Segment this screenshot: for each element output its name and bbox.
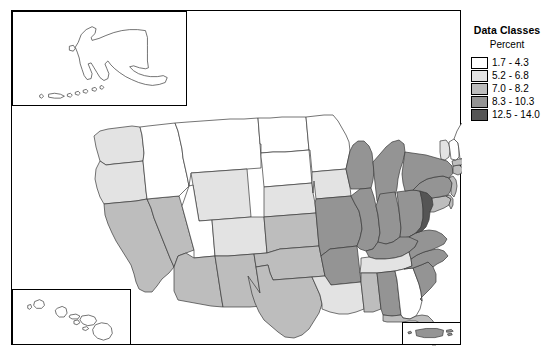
- legend-row[interactable]: 1.7 - 4.3: [471, 56, 546, 69]
- alaska-aleutian-7: [100, 85, 104, 89]
- alaska-aleutian-6: [40, 94, 44, 98]
- hawaii-niihau: [28, 304, 32, 309]
- state-vt[interactable]: [440, 140, 450, 160]
- puerto-rico-culebra: [447, 333, 452, 336]
- legend-swatch-2: [471, 83, 488, 95]
- legend-row[interactable]: 8.3 - 10.3: [471, 96, 546, 109]
- legend-label-0: 1.7 - 4.3: [492, 57, 529, 69]
- legend-swatch-1: [471, 70, 488, 82]
- alaska-aleutian-5: [92, 87, 97, 91]
- legend-title: Data Classes: [468, 24, 546, 37]
- alaska-mainland: [75, 27, 167, 86]
- alaska-island-1: [69, 45, 75, 51]
- hawaii-oahu: [55, 306, 67, 317]
- alaska-aleutian-3: [75, 91, 80, 95]
- alaska-aleutian-2: [67, 93, 72, 97]
- puerto-rico-vieques: [446, 329, 453, 332]
- alaska-aleutian-1: [49, 93, 65, 98]
- hawaii-bigisland: [93, 323, 113, 340]
- legend-swatch-4: [471, 109, 488, 121]
- state-or[interactable]: [95, 161, 147, 204]
- hawaii-kauai: [34, 300, 45, 309]
- hawaii-kahoolawe: [83, 327, 89, 331]
- hawaii-inset[interactable]: [12, 289, 131, 345]
- alaska-inset[interactable]: [12, 11, 187, 106]
- state-ia[interactable]: [312, 169, 351, 199]
- legend-subtitle: Percent: [468, 38, 546, 51]
- legend-row[interactable]: 7.0 - 8.2: [471, 82, 546, 95]
- legend-row[interactable]: 12.5 - 14.0: [471, 109, 546, 122]
- legend-label-2: 7.0 - 8.2: [492, 83, 529, 95]
- legend-swatch-0: [471, 57, 488, 69]
- state-wy[interactable]: [191, 169, 251, 221]
- legend-items: 1.7 - 4.3 5.2 - 6.8 7.0 - 8.2 8.3 - 10.3…: [471, 56, 546, 122]
- puerto-rico-inset-svg[interactable]: [403, 323, 460, 344]
- alaska-inset-svg[interactable]: [13, 12, 186, 105]
- puerto-rico-main: [416, 328, 444, 337]
- puerto-rico-mona: [408, 331, 412, 334]
- hawaii-molokai: [69, 314, 80, 319]
- state-sd[interactable]: [261, 150, 312, 187]
- state-wa[interactable]: [94, 126, 144, 165]
- alaska-aleutian-4: [83, 89, 88, 93]
- hawaii-inset-svg[interactable]: [13, 290, 130, 344]
- legend-panel: Data Classes Percent 1.7 - 4.3 5.2 - 6.8…: [468, 24, 546, 122]
- state-in[interactable]: [376, 192, 401, 244]
- map-frame: [11, 10, 461, 345]
- state-ne[interactable]: [264, 183, 316, 217]
- state-nd[interactable]: [258, 117, 309, 153]
- legend-swatch-3: [471, 96, 488, 108]
- state-md[interactable]: [430, 196, 451, 212]
- hawaii-maui: [80, 315, 97, 326]
- hawaii-lanai: [74, 320, 80, 325]
- legend-label-3: 8.3 - 10.3: [492, 96, 534, 108]
- state-co[interactable]: [212, 217, 267, 256]
- legend-row[interactable]: 5.2 - 6.8: [471, 69, 546, 82]
- puerto-rico-inset[interactable]: [402, 322, 461, 345]
- legend-label-4: 12.5 - 14.0: [492, 109, 540, 121]
- state-mn[interactable]: [306, 115, 350, 172]
- state-ct[interactable]: [453, 165, 462, 175]
- state-wi[interactable]: [346, 141, 374, 189]
- legend-label-1: 5.2 - 6.8: [492, 70, 529, 82]
